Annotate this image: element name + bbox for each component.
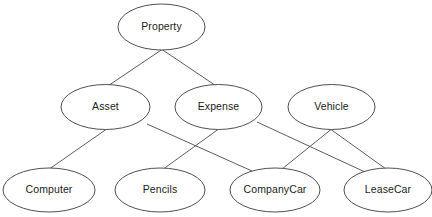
- node-label-companycar: CompanyCar: [244, 183, 307, 195]
- edge-vehicle-leasecar: [331, 130, 386, 170]
- edge-property-asset: [107, 50, 162, 87]
- node-label-computer: Computer: [26, 183, 73, 195]
- node-label-asset: Asset: [92, 100, 119, 112]
- node-label-expense: Expense: [198, 100, 240, 112]
- edge-asset-companycar: [147, 124, 252, 171]
- node-asset[interactable]: Asset: [61, 85, 150, 130]
- edge-property-expense: [162, 50, 217, 87]
- edge-expense-leasecar: [257, 122, 365, 172]
- node-label-vehicle: Vehicle: [314, 100, 349, 112]
- node-label-property: Property: [141, 20, 182, 32]
- node-label-pencils: Pencils: [143, 183, 178, 195]
- diagram-canvas: PropertyAssetExpenseVehicleComputerPenci…: [0, 0, 432, 217]
- node-computer[interactable]: Computer: [3, 168, 95, 212]
- node-pencils[interactable]: Pencils: [115, 168, 205, 212]
- node-property[interactable]: Property: [118, 4, 205, 50]
- node-label-leasecar: LeaseCar: [365, 183, 412, 195]
- node-leasecar[interactable]: LeaseCar: [344, 168, 432, 212]
- node-expense[interactable]: Expense: [175, 85, 262, 130]
- edge-vehicle-companycar: [282, 130, 331, 170]
- edge-asset-computer: [50, 130, 106, 169]
- node-companycar[interactable]: CompanyCar: [230, 168, 320, 212]
- graph-svg: PropertyAssetExpenseVehicleComputerPenci…: [0, 0, 432, 217]
- nodes-layer: PropertyAssetExpenseVehicleComputerPenci…: [3, 4, 432, 212]
- node-vehicle[interactable]: Vehicle: [288, 85, 375, 130]
